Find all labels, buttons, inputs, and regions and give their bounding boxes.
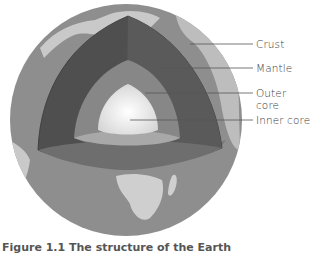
- figure-caption: Figure 1.1 The structure of the Earth: [2, 241, 231, 254]
- label-mantle: Mantle: [256, 62, 292, 74]
- label-crust: Crust: [256, 38, 284, 50]
- label-inner-core: Inner core: [256, 114, 310, 126]
- label-outer-core: Outer core: [256, 87, 312, 111]
